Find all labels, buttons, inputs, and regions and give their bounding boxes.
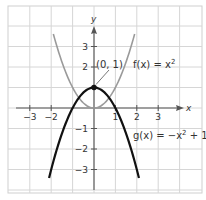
y-axis-label: y bbox=[90, 14, 97, 24]
vertex-point bbox=[91, 85, 97, 91]
y-tick-label: −2 bbox=[75, 144, 88, 154]
x-tick-label: −3 bbox=[23, 112, 36, 122]
grid bbox=[8, 6, 202, 193]
f-label: f(x) = x2 bbox=[133, 58, 175, 70]
annotation-point-label: (0, 1) bbox=[96, 59, 123, 70]
x-tick-label: 3 bbox=[155, 112, 161, 122]
x-tick-label: −2 bbox=[45, 112, 58, 122]
x-tick-label: 1 bbox=[113, 112, 119, 122]
y-tick-label: −1 bbox=[75, 124, 88, 134]
y-tick-label: 3 bbox=[82, 42, 88, 52]
g-label: g(x) = −x2 + 1 bbox=[133, 129, 206, 141]
grid-frame bbox=[8, 6, 202, 193]
y-tick-label: 2 bbox=[82, 62, 88, 72]
x-axis-label: x bbox=[185, 103, 192, 113]
function-graph: −3−212332−1−2−3xy(0, 1)f(x) = x2g(x) = −… bbox=[0, 0, 206, 200]
y-tick-label: −3 bbox=[75, 165, 88, 175]
x-tick-label: 2 bbox=[134, 112, 140, 122]
